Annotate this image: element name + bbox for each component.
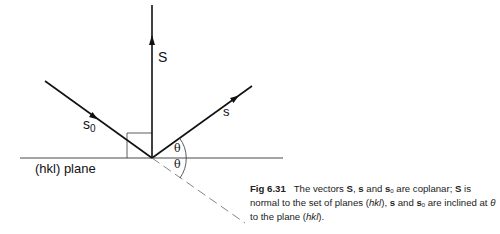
label-S: S xyxy=(158,49,167,65)
caption-text: The vectors xyxy=(294,183,347,194)
caption-theta: θ xyxy=(490,197,495,208)
figure-caption: Fig 6.31The vectors S, s and s0 are copl… xyxy=(250,183,500,223)
caption-text: to the plane ( xyxy=(250,211,306,222)
label-s0-sub: 0 xyxy=(90,123,96,134)
caption-italic-hkl: hkl xyxy=(306,211,318,222)
caption-text: ). xyxy=(318,211,324,222)
caption-text: are coplanar; xyxy=(394,183,455,194)
figure-number: Fig 6.31 xyxy=(250,183,286,194)
label-theta-lower: θ xyxy=(174,158,181,171)
right-angle-marker xyxy=(127,133,152,158)
vector-s-arrowhead xyxy=(230,96,239,104)
caption-text: are inclined at xyxy=(425,197,490,208)
caption-text: ), xyxy=(381,197,390,208)
figure: S s s0 θ θ (hkl) plane Fig 6.31The vecto… xyxy=(0,0,500,234)
label-s0: s0 xyxy=(83,116,96,132)
vector-s0-line xyxy=(45,81,152,158)
dashed-extension-line xyxy=(152,158,245,223)
caption-text: and xyxy=(364,183,385,194)
label-s: s xyxy=(223,104,230,119)
label-hkl-plane: (hkl) plane xyxy=(35,161,96,176)
label-theta-upper: θ xyxy=(174,142,181,155)
caption-italic-hkl: hkl xyxy=(369,197,381,208)
vector-S-arrowhead xyxy=(149,35,155,45)
label-s0-base: s xyxy=(83,116,90,132)
caption-text: and xyxy=(395,197,416,208)
